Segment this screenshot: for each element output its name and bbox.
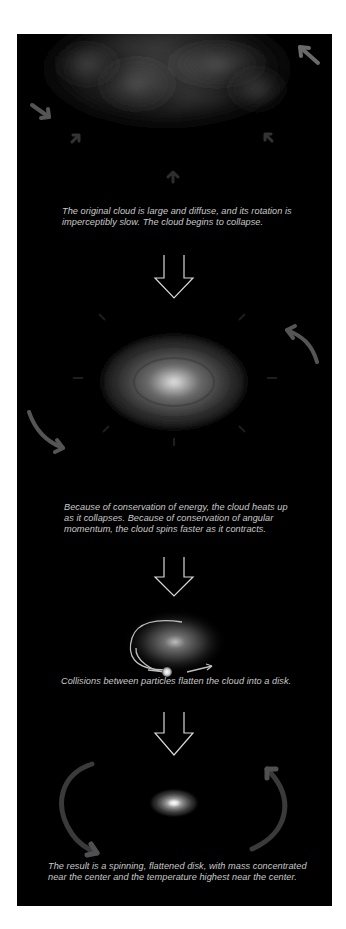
stage-4-caption: The result is a spinning, flattened disk…	[48, 861, 332, 883]
down-arrow-icon	[153, 556, 197, 596]
flattened-disk-illustration	[17, 759, 332, 869]
down-arrow-icon	[153, 711, 197, 757]
stage-1-caption: The original cloud is large and diffuse,…	[62, 206, 322, 228]
stage-2-caption: Because of conservation of energy, the c…	[64, 502, 324, 536]
stage-3-caption: Collisions between particles flatten the…	[61, 676, 331, 687]
contracting-cloud-illustration	[17, 314, 332, 484]
down-arrow-icon	[153, 254, 197, 294]
diffuse-cloud-illustration	[17, 34, 332, 194]
particle-collision-illustration	[17, 602, 332, 682]
diagram-panel: The original cloud is large and diffuse,…	[17, 34, 332, 906]
